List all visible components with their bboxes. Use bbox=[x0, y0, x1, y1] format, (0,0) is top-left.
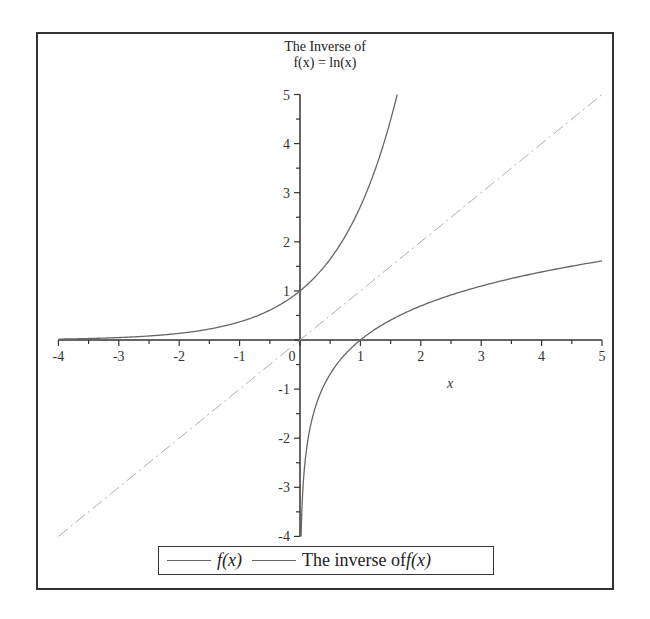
legend-item-fx: f(x) bbox=[167, 550, 242, 571]
y-tick-label: 4 bbox=[283, 137, 290, 152]
y-tick-label: 3 bbox=[283, 186, 290, 201]
legend: f(x) The inverse of f(x) bbox=[158, 546, 494, 575]
y-tick-label: 5 bbox=[283, 88, 290, 103]
legend-item-inverse: The inverse of f(x) bbox=[252, 550, 431, 571]
x-tick-label: 1 bbox=[357, 349, 364, 364]
x-tick-label: 5 bbox=[599, 349, 606, 364]
x-tick-label: -2 bbox=[173, 349, 185, 364]
x-tick-label: -3 bbox=[113, 349, 125, 364]
y-tick-label: 2 bbox=[283, 235, 290, 250]
curves bbox=[58, 95, 602, 537]
x-tick-label: -4 bbox=[53, 349, 65, 364]
tick-labels: -4-3-2-101234554321-1-2-3-4x bbox=[53, 88, 606, 545]
legend-label-inverse-prefix: The inverse of bbox=[302, 550, 406, 571]
legend-label-inverse-fx: f(x) bbox=[406, 550, 431, 571]
legend-label-fx: f(x) bbox=[217, 550, 242, 571]
x-tick-label: 0 bbox=[289, 349, 296, 364]
y-tick-label: -4 bbox=[278, 529, 290, 544]
x-tick-label: -1 bbox=[234, 349, 246, 364]
series-identity-line bbox=[58, 95, 602, 537]
series-f-of-x bbox=[58, 95, 397, 340]
y-tick-label: -3 bbox=[278, 480, 290, 495]
legend-swatch-fx bbox=[167, 560, 211, 561]
x-tick-label: 4 bbox=[538, 349, 545, 364]
x-tick-label: 2 bbox=[417, 349, 424, 364]
y-tick-label: -2 bbox=[278, 431, 290, 446]
x-axis-label: x bbox=[446, 376, 454, 391]
plot-area: -4-3-2-101234554321-1-2-3-4x bbox=[0, 0, 650, 619]
legend-swatch-inverse bbox=[252, 560, 296, 561]
y-tick-label: -1 bbox=[278, 382, 290, 397]
y-tick-label: 1 bbox=[283, 284, 290, 299]
series-inverse bbox=[301, 261, 602, 536]
x-tick-label: 3 bbox=[478, 349, 485, 364]
